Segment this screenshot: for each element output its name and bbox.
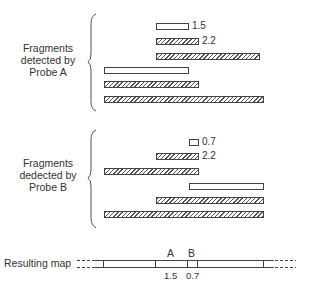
fragment-a-3 bbox=[156, 53, 260, 60]
brace-b-icon bbox=[88, 130, 96, 228]
map-label: Resulting map bbox=[4, 257, 71, 269]
fragment-b-1-size: 0.7 bbox=[202, 137, 216, 147]
fragment-a-1 bbox=[156, 23, 189, 30]
fragment-b-6 bbox=[104, 211, 264, 218]
fragment-b-2 bbox=[156, 153, 199, 160]
fragment-a-2 bbox=[156, 38, 199, 45]
brace-a-icon bbox=[88, 14, 96, 111]
fragment-a-4 bbox=[104, 67, 189, 74]
map-line bbox=[77, 260, 296, 268]
fragment-a-1-size: 1.5 bbox=[192, 21, 206, 31]
site-label-b: B bbox=[188, 247, 195, 259]
fragment-b-4 bbox=[189, 183, 264, 190]
fragment-b-3 bbox=[104, 168, 199, 175]
segment-label-1-5: 1.5 bbox=[164, 270, 177, 281]
fragment-a-6 bbox=[104, 96, 264, 103]
fragment-b-1 bbox=[189, 139, 199, 146]
fragment-b-2-size: 2.2 bbox=[202, 151, 216, 161]
fragment-b-5 bbox=[156, 197, 264, 204]
fragment-a-5 bbox=[104, 81, 199, 88]
segment-label-0-7: 0.7 bbox=[186, 270, 199, 281]
fragment-a-2-size: 2.2 bbox=[202, 36, 216, 46]
site-label-a: A bbox=[167, 247, 174, 259]
